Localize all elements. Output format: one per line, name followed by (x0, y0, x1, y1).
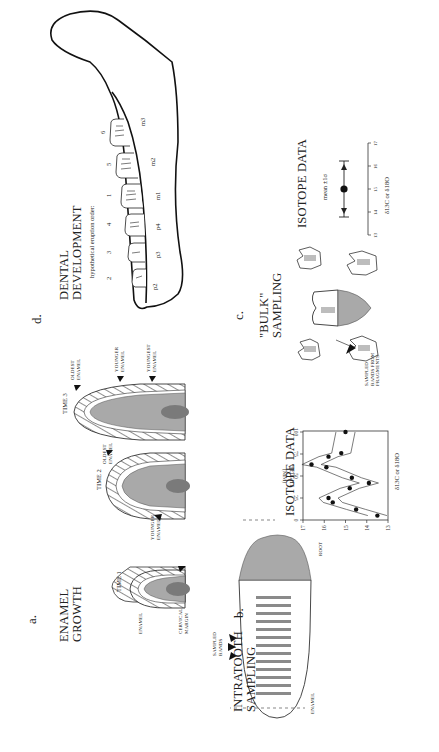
chart-c-xlabel: δ13C or δ18O (384, 177, 391, 214)
fragments-label: SAMPLED BANDS FROM FRAGMENTS (364, 353, 381, 386)
svg-text:0: 0 (293, 519, 299, 522)
svg-text:13: 13 (385, 525, 391, 531)
svg-text:100: 100 (293, 428, 299, 437)
svg-text:HEIGHT: HEIGHT (289, 465, 295, 488)
panel-c-label: c. (232, 311, 245, 320)
chart-c-title: ISOTOPE DATA (296, 139, 309, 228)
svg-text:25: 25 (293, 495, 299, 501)
svg-text:15: 15 (343, 525, 349, 531)
svg-text:14: 14 (364, 525, 370, 531)
svg-text:16: 16 (321, 525, 327, 531)
panel-c-title: "BULK" SAMPLING (258, 273, 284, 339)
svg-text:(MM): (MM) (281, 469, 288, 484)
figure-canvas: a. ENAMEL GROWTH (0, 0, 439, 752)
chart-b-xlabel: δ13C or δ18O (394, 453, 401, 490)
eruption-order-label: hypothetical eruption order: (89, 205, 96, 278)
panel-d-title: DENTAL DEVELOPMENT (58, 205, 84, 300)
svg-text:17: 17 (300, 525, 306, 531)
stat-label: mean ±1σ (322, 174, 329, 200)
panel-d-label: d. (30, 314, 43, 324)
svg-text:75: 75 (293, 451, 299, 457)
